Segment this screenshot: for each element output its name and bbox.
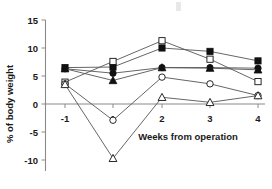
open-circle-marker	[207, 81, 213, 87]
open-square-marker	[110, 58, 116, 64]
x-axis-title: Weeks from operation	[138, 131, 238, 142]
series-layer	[61, 38, 262, 162]
open-triangle-marker	[158, 93, 166, 100]
x-tick-label-minus1: -1	[61, 113, 70, 124]
y-axis-title: % of body weight	[4, 64, 15, 143]
open-square-marker	[255, 79, 261, 85]
x-axis: -1 1 2 3 4	[46, 104, 266, 124]
scan-artifact	[176, 2, 181, 11]
y-tick-label-minus5: -5	[30, 127, 39, 138]
filled-circle-marker	[110, 70, 116, 76]
filled-square-marker	[159, 45, 165, 51]
open-square-marker	[159, 38, 165, 44]
filled-square-marker	[207, 48, 213, 54]
open-circle-marker	[159, 74, 165, 80]
open-circle-marker	[110, 117, 116, 123]
x-tick-label-3: 3	[207, 113, 212, 124]
y-tick-label-5: 5	[33, 71, 39, 82]
x-tick-label-2: 2	[159, 113, 164, 124]
open-square-marker	[207, 56, 213, 62]
chart-container: 15 10 5 0 -5 -10 % of body weight -1 1 2…	[0, 0, 272, 189]
y-tick-label-0: 0	[33, 99, 38, 110]
line-chart: 15 10 5 0 -5 -10 % of body weight -1 1 2…	[0, 0, 272, 189]
y-axis: 15 10 5 0 -5 -10	[24, 15, 45, 172]
y-tick-label-minus10: -10	[24, 155, 38, 166]
x-tick-label-4: 4	[255, 113, 261, 124]
y-tick-label-10: 10	[27, 43, 38, 54]
y-tick-label-15: 15	[27, 15, 38, 26]
filled-square-marker	[255, 58, 261, 64]
